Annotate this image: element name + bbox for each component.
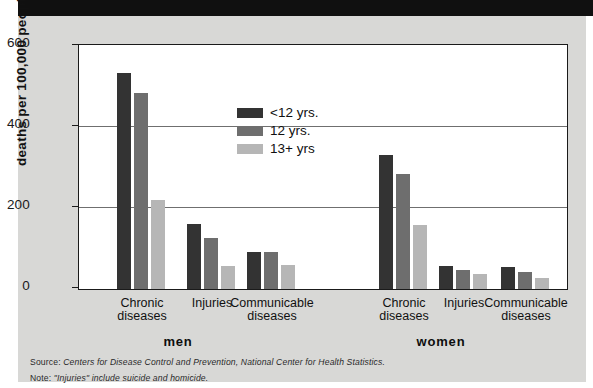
bar [439, 266, 453, 289]
source-text: Centers for Disease Control and Preventi… [63, 357, 385, 367]
x-label-line: diseases [471, 310, 581, 323]
bar-group [117, 45, 168, 289]
legend-label: 12 yrs. [270, 123, 311, 138]
bar [281, 265, 295, 289]
x-label-line: diseases [349, 310, 459, 323]
legend-label: 13+ yrs [270, 141, 315, 156]
bar [117, 73, 131, 289]
bar [473, 274, 487, 289]
y-axis-label: deaths per 100,000 people [14, 0, 29, 166]
x-axis-group-label: Communicablediseases [217, 297, 327, 323]
bar [264, 252, 278, 289]
page-right-margin [586, 16, 593, 388]
legend-item: 12 yrs. [237, 123, 318, 138]
bar-series-container [79, 45, 567, 289]
legend-swatch-icon [237, 108, 263, 118]
legend-item: 13+ yrs [237, 141, 318, 156]
legend-label: <12 yrs. [270, 105, 318, 120]
bar [221, 266, 235, 289]
x-label-line: diseases [217, 310, 327, 323]
plot-area: <12 yrs. 12 yrs. 13+ yrs [78, 44, 568, 290]
bar [134, 93, 148, 289]
bar [151, 200, 165, 289]
top-black-band [18, 0, 593, 16]
footnote: Note: "Injuries" include suicide and hom… [30, 373, 208, 383]
bar [187, 224, 201, 289]
bar-group [247, 45, 298, 289]
y-axis-tick-label: 200 [0, 197, 30, 212]
bar [396, 174, 410, 289]
bar-group [501, 45, 552, 289]
legend-swatch-icon [237, 126, 263, 136]
bar [413, 225, 427, 289]
x-axis-group-label: Communicablediseases [471, 297, 581, 323]
bar [535, 278, 549, 289]
legend: <12 yrs. 12 yrs. 13+ yrs [237, 105, 318, 159]
y-axis-tick-label: 0 [0, 278, 30, 293]
note-prefix: Note: [30, 373, 51, 383]
x-label-line: diseases [87, 310, 197, 323]
bar [456, 270, 470, 289]
note-text: "Injuries" include suicide and homicide. [54, 373, 208, 383]
y-axis-tick-label: 600 [0, 35, 30, 50]
source-prefix: Source: [30, 357, 61, 367]
bar [518, 272, 532, 289]
y-axis-tick-label: 400 [0, 116, 30, 131]
legend-item: <12 yrs. [237, 105, 318, 120]
source-note: Source: Centers for Disease Control and … [30, 357, 385, 367]
bar [204, 238, 218, 289]
supergroup-label-men: men [118, 334, 238, 349]
legend-swatch-icon [237, 144, 263, 154]
bar-group [439, 45, 490, 289]
bar [379, 155, 393, 289]
figure-page: deaths per 100,000 people 0200400600 <12… [0, 0, 593, 388]
supergroup-label-women: women [381, 334, 501, 349]
bar [501, 267, 515, 289]
chart-figure: deaths per 100,000 people 0200400600 <12… [18, 16, 586, 382]
bar [247, 252, 261, 289]
bar-group [187, 45, 238, 289]
bar-group [379, 45, 430, 289]
